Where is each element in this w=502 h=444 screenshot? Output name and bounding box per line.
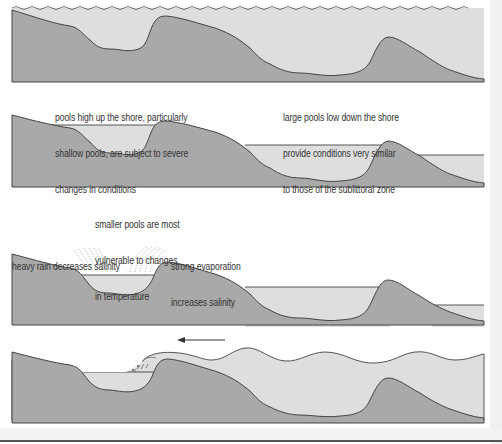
annotation-line: increases salinity <box>171 297 241 309</box>
annotation-rain: heavy rain decreases salinity <box>12 237 120 285</box>
panel-4-incoming-tide <box>12 337 484 423</box>
annotation-line: shallow pools, are subject to severe <box>55 148 188 160</box>
annotation-evaporation: strong evaporation increases salinity <box>171 237 241 321</box>
annotation-line: pools high up the shore, particularly <box>55 112 188 124</box>
rock-pool-diagram <box>0 0 502 444</box>
arrow-left-icon <box>177 337 225 343</box>
annotation-line: in temperature <box>95 291 180 303</box>
annotation-line: large pools low down the shore <box>283 112 399 124</box>
annotation-line: heavy rain decreases salinity <box>12 261 120 273</box>
annotation-line: to those of the sublittoral zone <box>283 184 399 196</box>
annotation-line: provide conditions very similar <box>283 148 399 160</box>
annotation-large-pools: large pools low down the shore provide c… <box>283 88 399 208</box>
annotation-high-pools: pools high up the shore, particularly sh… <box>55 88 188 208</box>
annotation-line: strong evaporation <box>171 261 241 273</box>
panel-1-high-tide <box>12 7 484 83</box>
air-gap <box>82 340 142 372</box>
annotation-line: smaller pools are most <box>95 219 180 231</box>
